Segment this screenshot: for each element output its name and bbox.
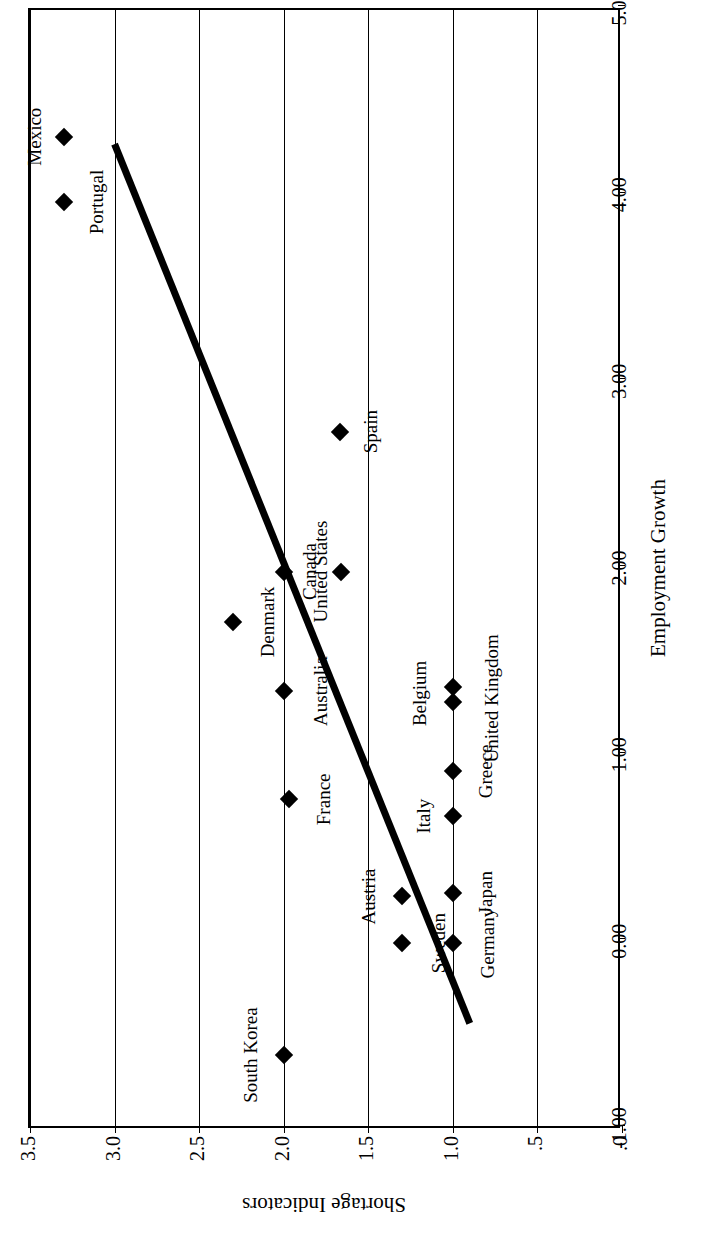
y-tick-label: 1.0 — [439, 1136, 462, 1161]
data-point-marker — [55, 193, 73, 211]
data-point-marker — [275, 562, 293, 580]
data-point-label: Italy — [413, 799, 432, 834]
y-tick-label: 3.0 — [101, 1136, 124, 1161]
gridline-shortage — [368, 10, 369, 1126]
y-axis-tick — [115, 1126, 116, 1133]
data-point-label: Portugal — [86, 170, 105, 234]
data-point-label: Greece — [475, 744, 494, 798]
y-tick-label: .0 — [609, 1136, 632, 1151]
y-axis-tick — [30, 1126, 31, 1133]
data-point-label: Germany — [477, 908, 496, 979]
data-point-marker — [393, 934, 411, 952]
y-axis-tick — [453, 1126, 454, 1133]
x-tick-label: 0.00 — [608, 924, 631, 959]
data-point-marker — [393, 887, 411, 905]
y-axis-title: Shortage Indicators — [242, 1192, 406, 1217]
gridline-shortage — [199, 10, 200, 1126]
data-point-marker — [55, 127, 73, 145]
data-point-label: France — [313, 773, 332, 825]
data-point-label: Mexico — [24, 108, 43, 166]
x-tick-label: 3.00 — [608, 364, 631, 399]
gridline-shortage — [537, 10, 538, 1126]
data-point-label: South Korea — [240, 1007, 259, 1103]
data-point-label: Belgium — [409, 661, 428, 726]
x-tick-label: 4.00 — [608, 177, 631, 212]
x-tick-label: 2.00 — [608, 551, 631, 586]
x-axis-title: Employment Growth — [646, 479, 671, 657]
data-point-label: Austria — [359, 868, 378, 924]
y-tick-label: 3.5 — [17, 1136, 40, 1161]
rotated-chart-canvas: MexicoPortugalDenmarkSouth KoreaUnited S… — [0, 0, 716, 1248]
y-tick-label: .5 — [524, 1136, 547, 1151]
data-point-marker — [280, 790, 298, 808]
data-point-marker — [330, 422, 348, 440]
data-point-label: Australia — [310, 656, 329, 726]
data-point-label: Denmark — [257, 587, 276, 658]
y-tick-label: 2.0 — [270, 1136, 293, 1161]
data-point-label: Spain — [360, 410, 379, 453]
gridline-shortage — [30, 10, 31, 1126]
y-tick-label: 1.5 — [355, 1136, 378, 1161]
x-tick-label: 1.00 — [608, 737, 631, 772]
data-point-marker — [332, 562, 350, 580]
gridline-shortage — [453, 10, 454, 1126]
data-point-marker — [444, 807, 462, 825]
data-point-label: United Kingdom — [481, 634, 500, 762]
x-tick-label: 5.00 — [608, 0, 631, 26]
data-point-marker — [444, 883, 462, 901]
data-point-marker — [224, 613, 242, 631]
y-axis-tick — [199, 1126, 200, 1133]
data-point-marker — [275, 1046, 293, 1064]
y-axis-tick — [284, 1126, 285, 1133]
data-point-label: Canada — [300, 543, 319, 600]
y-tick-label: 2.5 — [186, 1136, 209, 1161]
gridline-shortage — [115, 10, 116, 1126]
data-point-marker — [275, 682, 293, 700]
plot-area: MexicoPortugalDenmarkSouth KoreaUnited S… — [28, 8, 620, 1128]
data-point-marker — [444, 762, 462, 780]
data-point-marker — [444, 693, 462, 711]
y-axis-tick — [368, 1126, 369, 1133]
y-axis-tick — [537, 1126, 538, 1133]
chart-figure: MexicoPortugalDenmarkSouth KoreaUnited S… — [0, 0, 716, 1248]
